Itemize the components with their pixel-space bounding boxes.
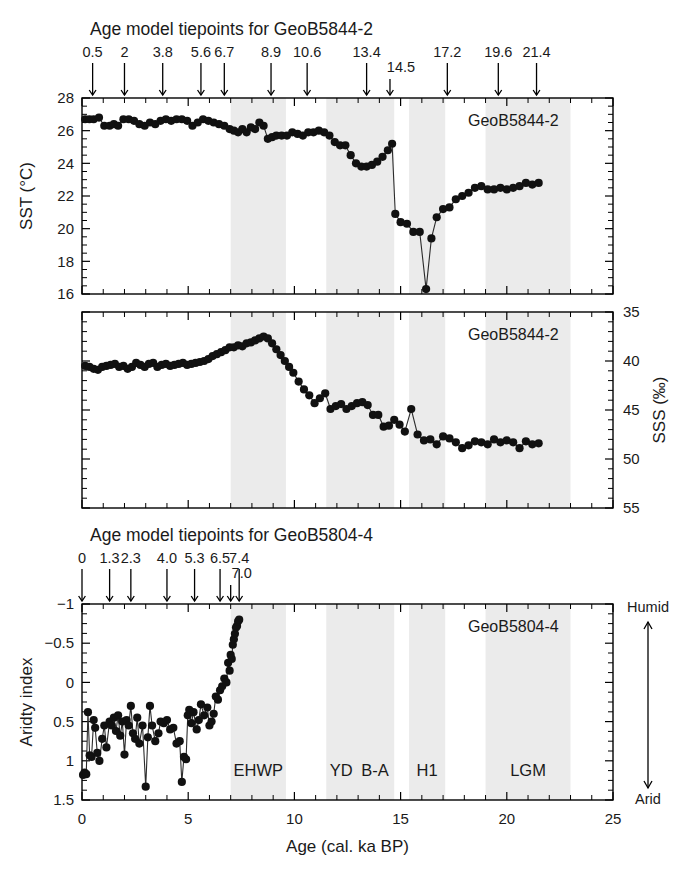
tiepoint-arrow-icon — [304, 63, 311, 95]
humid-arid-scale: HumidArid — [627, 599, 669, 807]
tiepoint-arrow-icon — [106, 569, 113, 601]
y-tick-label: 45 — [623, 401, 640, 418]
y-tick-label: 28 — [57, 89, 74, 106]
event-label-ba: B-A — [361, 761, 389, 779]
figure-root: Age model tiepoints for GeoB5844-20.523.… — [0, 0, 689, 873]
y-tick-label: 40 — [623, 352, 640, 369]
tiepoint-label: 6.7 — [214, 44, 234, 60]
tiepoint-arrow-icon — [533, 63, 540, 95]
y-tick-label: 0 — [66, 674, 74, 691]
tiepoint-arrow-icon — [217, 569, 224, 601]
series-points — [81, 114, 543, 294]
tiepoint-label: 3.8 — [153, 44, 173, 60]
tiepoint-arrow-icon — [221, 63, 228, 95]
y-axis-label: SST (°C) — [17, 162, 36, 230]
tiepoint-label: 17.2 — [433, 44, 461, 60]
x-tick-label: 25 — [605, 810, 622, 827]
arid-label: Arid — [635, 791, 661, 807]
tiepoint-label: 2.3 — [121, 550, 141, 566]
y-axis-label: Aridty index — [17, 657, 36, 746]
tiepoint-label: 5.6 — [191, 44, 211, 60]
tiepoint-label: 0 — [78, 550, 86, 566]
panel-sss: 3540455055SSS (‰)GeoB5844-2 — [81, 303, 669, 516]
tiepoint-arrow-icon — [159, 63, 166, 95]
tiepoint-label: 5.3 — [184, 550, 204, 566]
x-tick-label: 5 — [184, 810, 192, 827]
x-tick-label: 10 — [286, 810, 303, 827]
tiepoints-bottom: Age model tiepoints for GeoB5804-401.32.… — [78, 525, 373, 601]
event-label-yd: YD — [330, 761, 353, 779]
y-tick-label: 50 — [623, 450, 640, 467]
y-tick-label: 20 — [57, 220, 74, 237]
y-tick-label: −1 — [57, 595, 74, 612]
tiepoint-arrow-icon — [268, 63, 275, 95]
tiepoint-arrow-icon — [363, 63, 370, 95]
tiepoint-label: 0.5 — [83, 44, 103, 60]
y-tick-label: 16 — [57, 285, 74, 302]
y-tick-label: 26 — [57, 122, 74, 139]
tiepoint-label: 6.5 — [210, 550, 230, 566]
x-axis-label: Age (cal. ka BP) — [286, 837, 409, 856]
y-axis-label: SSS (‰) — [650, 376, 669, 443]
tiepoint-label: 1.3 — [100, 550, 120, 566]
x-tick-label: 20 — [498, 810, 515, 827]
tiepoint-label: 10.6 — [293, 44, 321, 60]
tiepoint-label: 4.0 — [157, 550, 177, 566]
tiepoint-label: 2 — [120, 44, 128, 60]
y-tick-label: 1 — [66, 752, 74, 769]
tiepoint-label: 8.9 — [261, 44, 281, 60]
y-tick-label: 22 — [57, 187, 74, 204]
tiepoint-arrow-icon — [164, 569, 171, 601]
tiepoint-arrow-icon — [227, 585, 234, 601]
y-tick-label: 0.5 — [53, 713, 74, 730]
tiepoint-arrow-icon — [121, 63, 128, 95]
tiepoints-bottom-title: Age model tiepoints for GeoB5804-4 — [90, 525, 373, 545]
tiepoint-label: 14.5 — [387, 59, 415, 75]
event-label-ehwp: EHWP — [234, 761, 284, 779]
event-band-ba — [356, 98, 394, 294]
tiepoint-arrow-icon — [191, 569, 198, 601]
tiepoint-arrow-icon — [495, 63, 502, 95]
y-tick-label: 55 — [623, 499, 640, 516]
x-tick-label: 0 — [78, 810, 86, 827]
core-label-aridity: GeoB5804-4 — [468, 618, 559, 635]
tiepoints-top: Age model tiepoints for GeoB5844-20.523.… — [83, 19, 551, 95]
tiepoint-label: 7.4 — [229, 550, 249, 566]
tiepoint-label: 19.6 — [484, 44, 512, 60]
event-label-lgm: LGM — [510, 761, 546, 779]
x-axis: 0510152025Age (cal. ka BP) — [78, 810, 622, 856]
series-line — [85, 118, 538, 290]
event-band-ba — [356, 312, 394, 508]
series-line — [83, 620, 239, 787]
y-tick-label: −0.5 — [44, 634, 74, 651]
series-points — [79, 616, 243, 791]
tiepoint-label: 13.4 — [352, 44, 380, 60]
event-band-yd — [326, 98, 356, 294]
tiepoint-label: 7.0 — [232, 565, 252, 581]
tiepoints-top-title: Age model tiepoints for GeoB5844-2 — [90, 19, 373, 39]
core-label-sst: GeoB5844-2 — [468, 112, 559, 129]
tiepoint-arrow-icon — [89, 63, 96, 95]
tiepoint-arrow-icon — [198, 63, 205, 95]
x-tick-label: 15 — [392, 810, 409, 827]
y-tick-label: 35 — [623, 303, 640, 320]
y-tick-label: 18 — [57, 253, 74, 270]
tiepoint-arrow-icon — [79, 569, 86, 601]
core-label-sss: GeoB5844-2 — [468, 326, 559, 343]
y-tick-label: 24 — [57, 155, 74, 172]
tiepoint-label: 21.4 — [522, 44, 550, 60]
tiepoint-arrow-icon — [387, 79, 394, 95]
series-points — [81, 332, 543, 452]
event-label-h1: H1 — [417, 761, 438, 779]
tiepoint-arrow-icon — [444, 63, 451, 95]
y-tick-label: 1.5 — [53, 791, 74, 808]
humid-label: Humid — [627, 599, 669, 615]
panel-sst: 16182022242628SST (°C)GeoB5844-2 — [17, 89, 613, 302]
event-band-h1 — [409, 98, 445, 294]
tiepoint-arrow-icon — [127, 569, 134, 601]
